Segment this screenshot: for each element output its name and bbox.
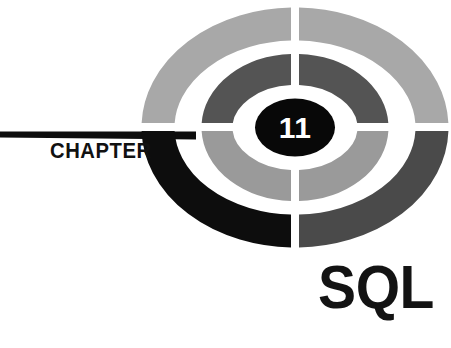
outer-ring-bottom-left [158, 24, 432, 231]
inner-ring-bottom-right [217, 70, 373, 186]
chapter-opener-page: 11 CHAPTER SQL [0, 0, 451, 348]
chapter-title: SQL [318, 256, 434, 318]
outer-ring-top-left [158, 24, 432, 231]
outer-ring-top-right [158, 24, 432, 231]
emblem-inner-ring [217, 70, 373, 186]
chapter-number: 11 [279, 111, 312, 144]
inner-ring-top-right [217, 70, 373, 186]
outer-ring-bottom-right [158, 24, 432, 231]
inner-ring-top-left [217, 70, 373, 186]
inner-ring-bottom-left [217, 70, 373, 186]
chapter-label: CHAPTER [50, 141, 152, 163]
emblem-center-disc [255, 99, 335, 157]
emblem-outer-ring [158, 24, 432, 231]
